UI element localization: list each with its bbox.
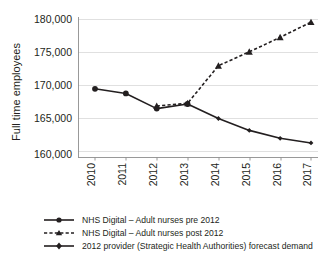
x-tick-label-2015: 2015 <box>240 163 252 187</box>
x-tick-label-2010: 2010 <box>85 163 97 187</box>
line-chart: Full time employees 180,000 175,000 170,… <box>0 0 332 270</box>
legend-label-forecast-demand: 2012 provider (Strategic Health Authorit… <box>82 241 313 251</box>
x-tick-label-2014: 2014 <box>209 163 221 187</box>
y-tick-label-170000: 170,000 <box>34 79 72 91</box>
y-tick-label-175000: 175,000 <box>34 46 72 58</box>
x-tick-label-2017: 2017 <box>301 163 313 187</box>
x-tick-label-2011: 2011 <box>116 163 128 186</box>
chart-figure: Full time employees 180,000 175,000 170,… <box>0 0 332 270</box>
legend-label-pre-2012: NHS Digital – Adult nurses pre 2012 <box>82 215 220 225</box>
y-tick-label-160000: 160,000 <box>34 148 72 160</box>
circle-data-point <box>123 91 129 97</box>
legend-item-forecast-demand[interactable]: 2012 provider (Strategic Health Authorit… <box>44 241 313 251</box>
legend-label-post-2012: NHS Digital – Adult nurses post 2012 <box>82 228 224 238</box>
x-tick-label-2012: 2012 <box>147 163 159 187</box>
y-tick-label-180000: 180,000 <box>34 13 72 25</box>
circle-data-point <box>92 86 98 92</box>
x-tick-label-2013: 2013 <box>178 163 190 187</box>
circle-marker-icon <box>56 217 61 222</box>
y-axis-title: Full time employees <box>10 43 22 141</box>
y-tick-label-165000: 165,000 <box>34 112 72 124</box>
x-tick-label-2016: 2016 <box>271 163 283 187</box>
